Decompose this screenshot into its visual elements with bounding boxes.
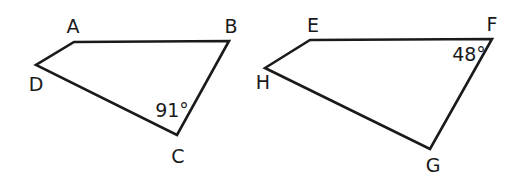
angle-label-f: 48°	[452, 43, 486, 65]
quadrilateral-efgh: E F G H 48°	[256, 13, 498, 176]
quadrilateral-abcd: A B C D 91°	[29, 15, 238, 167]
vertex-label-g: G	[426, 154, 441, 176]
quadrilateral-abcd-outline	[36, 41, 229, 135]
vertex-label-h: H	[256, 71, 270, 93]
vertex-label-b: B	[224, 15, 237, 37]
vertex-label-f: F	[487, 13, 498, 35]
vertex-label-d: D	[29, 73, 44, 95]
vertex-label-c: C	[171, 145, 184, 167]
vertex-label-e: E	[307, 14, 319, 36]
angle-label-c: 91°	[155, 99, 189, 121]
quadrilateral-figure: A B C D 91° E F G H 48°	[0, 0, 515, 179]
vertex-label-a: A	[67, 15, 80, 37]
